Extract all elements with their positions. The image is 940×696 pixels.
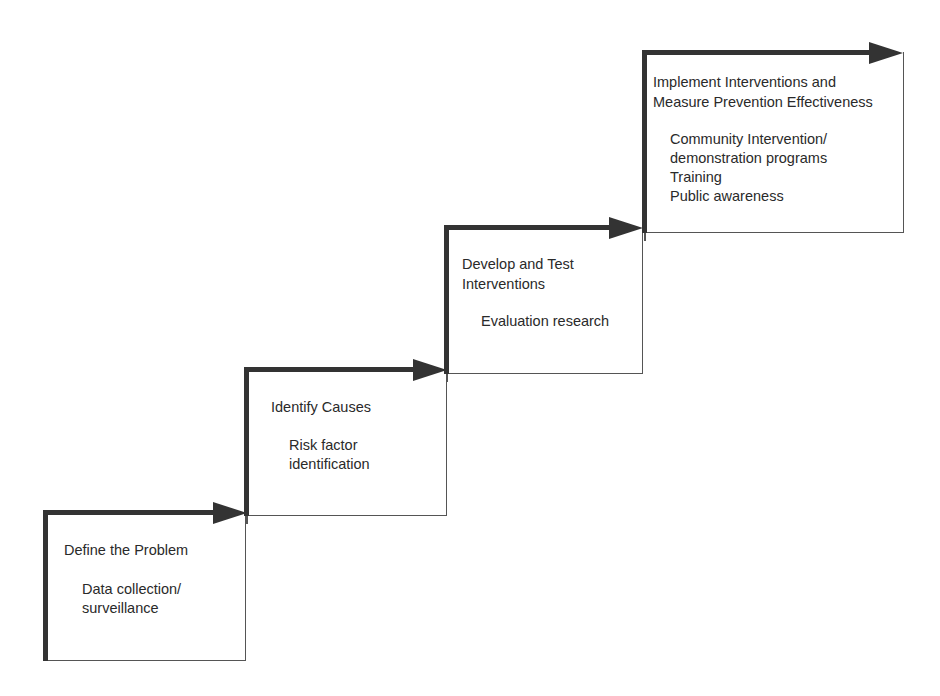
step-3-details: Evaluation research — [481, 312, 609, 331]
step-4-details: Community Intervention/ demonstration pr… — [670, 130, 827, 206]
step-1-arrow-shaft — [43, 510, 215, 515]
step-3-box — [446, 227, 643, 374]
step-2-title-line-1: Identify Causes — [271, 397, 371, 417]
step-3-arrowhead-icon — [609, 217, 643, 239]
step-1-title: Define the Problem — [64, 540, 188, 560]
step-4-title: Implement Interventions and Measure Prev… — [653, 72, 873, 112]
step-2-arrow-shaft — [244, 367, 416, 372]
step-2-left-edge — [244, 367, 249, 516]
step-1-left-edge — [43, 510, 48, 661]
step-4-detail-line-2: demonstration programs — [670, 149, 827, 168]
step-2-detail-line-2: identification — [289, 455, 370, 474]
step-4-title-line-2: Measure Prevention Effectiveness — [653, 92, 873, 112]
step-2-detail-line-1: Risk factor — [289, 436, 370, 455]
step-1-detail-line-2: surveillance — [82, 599, 181, 618]
step-3-title-line-2: Interventions — [462, 274, 574, 294]
step-1-title-line-1: Define the Problem — [64, 540, 188, 560]
step-4-left-edge — [642, 50, 647, 233]
step-3-arrow-shaft — [444, 225, 612, 230]
step-4-arrow-shaft — [642, 50, 872, 55]
step-3-detail-line-1: Evaluation research — [481, 312, 609, 331]
step-2-title: Identify Causes — [271, 397, 371, 417]
step-2-arrowhead-icon — [413, 359, 447, 381]
step-1-arrowhead-icon — [213, 502, 247, 524]
step-4-detail-line-3: Training — [670, 168, 827, 187]
step-3-title: Develop and Test Interventions — [462, 254, 574, 294]
step-4-detail-line-1: Community Intervention/ — [670, 130, 827, 149]
step-4-arrowhead-icon — [869, 42, 903, 64]
step-4-title-line-1: Implement Interventions and — [653, 72, 873, 92]
step-1-detail-line-1: Data collection/ — [82, 580, 181, 599]
step-3-title-line-1: Develop and Test — [462, 254, 574, 274]
step-1-details: Data collection/ surveillance — [82, 580, 181, 618]
step-2-details: Risk factor identification — [289, 436, 370, 474]
step-3-left-edge — [444, 225, 449, 374]
step-4-detail-line-4: Public awareness — [670, 187, 827, 206]
